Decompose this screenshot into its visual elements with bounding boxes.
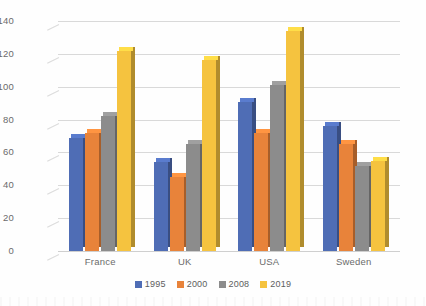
bar-sweden-2008 bbox=[355, 166, 369, 251]
bar-top bbox=[357, 162, 371, 166]
y-tick-label: 60 bbox=[0, 146, 14, 157]
bar-face bbox=[355, 166, 369, 251]
bar-side bbox=[216, 56, 220, 247]
bar-usa-1995 bbox=[238, 102, 252, 252]
y-tick-label: 0 bbox=[0, 245, 14, 256]
bar-face bbox=[117, 51, 131, 251]
x-axis-category-labels: FranceUKUSASweden bbox=[46, 256, 400, 272]
bar-france-2019 bbox=[117, 51, 131, 251]
y-tick-label: 80 bbox=[0, 114, 14, 125]
bar-top bbox=[119, 47, 133, 51]
bar-top bbox=[325, 122, 339, 126]
legend-label: 2008 bbox=[229, 279, 250, 289]
bar-top bbox=[156, 158, 170, 162]
legend-label: 2000 bbox=[187, 279, 208, 289]
plot-area: 140120100806040200 bbox=[46, 16, 400, 251]
x-tick-label-uk: UK bbox=[143, 256, 228, 267]
bar-sweden-2019 bbox=[371, 161, 385, 251]
bar-france-2000 bbox=[85, 133, 99, 251]
bar-france-2008 bbox=[101, 116, 115, 251]
bar-top bbox=[204, 56, 218, 60]
bar-top bbox=[240, 98, 254, 102]
bar-usa-2000 bbox=[254, 133, 268, 251]
bar-face bbox=[85, 133, 99, 251]
bar-top bbox=[188, 140, 202, 144]
bar-uk-2019 bbox=[202, 60, 216, 251]
bar-top bbox=[341, 140, 355, 144]
bar-face bbox=[371, 161, 385, 251]
y-tick-label: 20 bbox=[0, 212, 14, 223]
bar-face bbox=[254, 133, 268, 251]
x-tick-label-sweden: Sweden bbox=[312, 256, 397, 267]
bar-face bbox=[101, 116, 115, 251]
bar-usa-2019 bbox=[286, 31, 300, 251]
bar-uk-1995 bbox=[154, 162, 168, 251]
bar-side bbox=[385, 157, 389, 247]
legend-label: 1995 bbox=[145, 279, 166, 289]
bar-uk-2000 bbox=[170, 177, 184, 251]
y-tick-label: 140 bbox=[0, 15, 14, 26]
bar-side bbox=[300, 27, 304, 247]
x-tick-label-usa: USA bbox=[227, 256, 312, 267]
bar-side bbox=[131, 47, 135, 247]
bar-sweden-1995 bbox=[323, 126, 337, 251]
bar-group bbox=[143, 16, 228, 251]
chart-legend: 1995200020082019 bbox=[0, 279, 426, 289]
bar-face bbox=[69, 138, 83, 251]
legend-item-2019[interactable]: 2019 bbox=[260, 279, 291, 289]
legend-item-1995[interactable]: 1995 bbox=[135, 279, 166, 289]
bar-face bbox=[202, 60, 216, 251]
legend-label: 2019 bbox=[270, 279, 291, 289]
bar-face bbox=[286, 31, 300, 251]
legend-swatch-icon bbox=[260, 281, 267, 288]
bar-top bbox=[87, 129, 101, 133]
legend-swatch-icon bbox=[219, 281, 226, 288]
bar-groups bbox=[58, 16, 396, 251]
bar-face bbox=[238, 102, 252, 252]
legend-swatch-icon bbox=[135, 281, 142, 288]
legend-swatch-icon bbox=[177, 281, 184, 288]
gridline-0 bbox=[58, 251, 400, 252]
bar-france-1995 bbox=[69, 138, 83, 251]
bar-top bbox=[288, 27, 302, 31]
scan-artifact bbox=[0, 297, 426, 306]
bar-face bbox=[323, 126, 337, 251]
bar-face bbox=[154, 162, 168, 251]
bar-group bbox=[312, 16, 397, 251]
bar-sweden-2000 bbox=[339, 144, 353, 251]
bar-face bbox=[270, 85, 284, 251]
y-tick-label: 120 bbox=[0, 48, 14, 59]
bar-group bbox=[227, 16, 312, 251]
y-tick-label: 100 bbox=[0, 81, 14, 92]
bar-top bbox=[172, 173, 186, 177]
bar-usa-2008 bbox=[270, 85, 284, 251]
bar-top bbox=[71, 134, 85, 138]
bar-top bbox=[103, 112, 117, 116]
bar-face bbox=[170, 177, 184, 251]
bar-face bbox=[339, 144, 353, 251]
bar-face bbox=[186, 144, 200, 251]
bar-chart: 140120100806040200 FranceUKUSASweden 199… bbox=[0, 0, 426, 306]
y-tick-label: 40 bbox=[0, 179, 14, 190]
bar-top bbox=[256, 129, 270, 133]
x-tick-label-france: France bbox=[58, 256, 143, 267]
bar-group bbox=[58, 16, 143, 251]
bar-top bbox=[373, 157, 387, 161]
legend-item-2008[interactable]: 2008 bbox=[219, 279, 250, 289]
legend-item-2000[interactable]: 2000 bbox=[177, 279, 208, 289]
bar-top bbox=[272, 81, 286, 85]
bar-uk-2008 bbox=[186, 144, 200, 251]
